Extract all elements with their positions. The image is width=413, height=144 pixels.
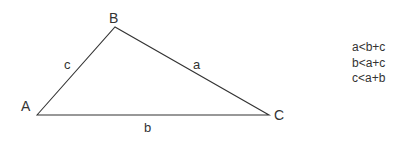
vertex-label-c: C: [274, 108, 284, 122]
inequality-c: c<a+b: [352, 71, 385, 87]
inequality-a: a<b+c: [352, 40, 385, 56]
triangle-inequalities: a<b+c b<a+c c<a+b: [352, 40, 385, 87]
side-label-c: c: [64, 58, 71, 71]
inequality-b: b<a+c: [352, 56, 385, 72]
triangle-abc: [37, 27, 269, 115]
side-label-a: a: [193, 58, 200, 71]
vertex-label-a: A: [21, 99, 30, 113]
vertex-label-b: B: [109, 11, 118, 25]
side-label-b: b: [144, 121, 151, 134]
